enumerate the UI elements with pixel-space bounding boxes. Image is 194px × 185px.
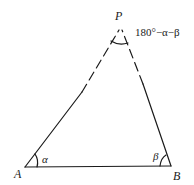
angle-label-a: α	[42, 153, 48, 165]
angle-arc-p	[111, 41, 128, 44]
vertex-label-p: P	[114, 9, 123, 23]
edge-bp-dashed	[122, 30, 143, 84]
angle-arc-b	[160, 155, 166, 166]
edge-ap-solid	[25, 92, 82, 167]
edge-ap-dashed	[82, 30, 119, 92]
triangle-diagram: P A B 180°−α−β α β	[0, 0, 194, 185]
vertex-label-a: A	[13, 167, 22, 181]
edge-ab	[25, 166, 171, 167]
angle-arc-a	[35, 154, 38, 167]
angle-label-b: β	[152, 150, 159, 162]
vertex-label-b: B	[173, 169, 181, 183]
angle-label-p: 180°−α−β	[135, 26, 180, 38]
